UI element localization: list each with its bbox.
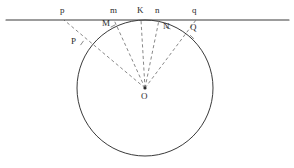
geometry-canvas	[0, 0, 294, 168]
circle-point-label-Q: Q	[190, 23, 197, 32]
ray-O-K	[141, 20, 145, 88]
line-point-label-m: m	[110, 6, 117, 15]
circle-point-label-N: N	[163, 22, 170, 31]
line-point-label-K: K	[137, 6, 144, 15]
tick-P	[80, 41, 83, 45]
circle-point-label-P: P	[71, 37, 76, 46]
center-dot-O	[143, 86, 146, 89]
rays-group	[64, 20, 196, 88]
line-point-label-p: p	[60, 6, 65, 15]
ray-O-N-n	[145, 20, 159, 88]
ray-O-M-m	[114, 20, 145, 88]
circle-point-label-M: M	[102, 19, 110, 28]
geometry-diagram: pmKnqPMNQO	[0, 0, 294, 168]
ray-O-P-p	[64, 20, 145, 88]
center-point-label-O: O	[141, 92, 148, 101]
line-point-label-q: q	[192, 6, 197, 15]
ray-O-Q-q	[145, 20, 196, 88]
line-point-label-n: n	[155, 6, 160, 15]
